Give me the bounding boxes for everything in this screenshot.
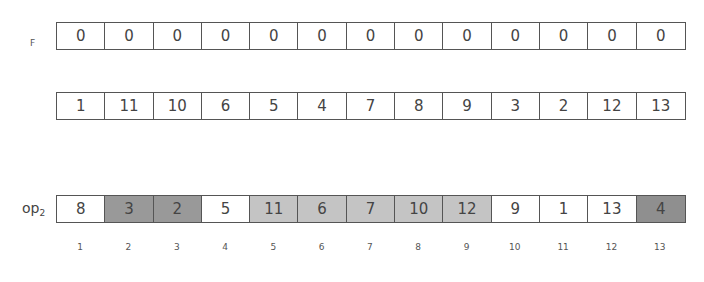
op2-label-subscript: 2: [39, 208, 45, 218]
f-cell: 0: [443, 23, 491, 49]
index-label: 11: [539, 242, 587, 252]
index-label: 9: [442, 242, 490, 252]
index-label: 3: [153, 242, 201, 252]
op2-cell: 5: [202, 196, 250, 222]
f-cell: 0: [298, 23, 346, 49]
f-cell: 0: [637, 23, 685, 49]
op2-cell: 1: [540, 196, 588, 222]
f-cell: 0: [105, 23, 153, 49]
op2-cell: 4: [637, 196, 685, 222]
index-label: 12: [587, 242, 635, 252]
f-cell: 0: [395, 23, 443, 49]
perm-cell: 1: [57, 93, 105, 119]
f-cell: 0: [588, 23, 636, 49]
permutation-array: 11110654789321213: [56, 92, 686, 120]
op2-row-label: op2: [22, 200, 45, 218]
f-row-label: F: [30, 38, 35, 48]
op2-cell: 10: [395, 196, 443, 222]
f-cell: 0: [57, 23, 105, 49]
f-cell: 0: [540, 23, 588, 49]
index-label: 13: [636, 242, 684, 252]
f-cell: 0: [347, 23, 395, 49]
index-label: 2: [104, 242, 152, 252]
f-cell: 0: [250, 23, 298, 49]
perm-cell: 7: [347, 93, 395, 119]
index-label: 1: [56, 242, 104, 252]
f-cell: 0: [154, 23, 202, 49]
index-label: 8: [394, 242, 442, 252]
op2-cell: 2: [154, 196, 202, 222]
perm-cell: 4: [298, 93, 346, 119]
op2-cell: 3: [105, 196, 153, 222]
op2-cell: 7: [347, 196, 395, 222]
perm-cell: 5: [250, 93, 298, 119]
index-label: 7: [346, 242, 394, 252]
index-label: 10: [491, 242, 539, 252]
op2-cell: 6: [298, 196, 346, 222]
op2-cell: 12: [443, 196, 491, 222]
op2-cell: 11: [250, 196, 298, 222]
perm-cell: 12: [588, 93, 636, 119]
index-label: 5: [249, 242, 297, 252]
f-array: 0000000000000: [56, 22, 686, 50]
perm-cell: 2: [540, 93, 588, 119]
perm-cell: 9: [443, 93, 491, 119]
op2-array: 83251167101291134: [56, 195, 686, 223]
index-row: 12345678910111213: [56, 242, 684, 252]
perm-cell: 8: [395, 93, 443, 119]
op2-cell: 9: [492, 196, 540, 222]
f-cell: 0: [492, 23, 540, 49]
perm-cell: 3: [492, 93, 540, 119]
index-label: 6: [297, 242, 345, 252]
index-label: 4: [201, 242, 249, 252]
perm-cell: 10: [154, 93, 202, 119]
op2-cell: 8: [57, 196, 105, 222]
f-cell: 0: [202, 23, 250, 49]
op2-label-text: op: [22, 200, 39, 216]
perm-cell: 13: [637, 93, 685, 119]
perm-cell: 11: [105, 93, 153, 119]
perm-cell: 6: [202, 93, 250, 119]
op2-cell: 13: [588, 196, 636, 222]
